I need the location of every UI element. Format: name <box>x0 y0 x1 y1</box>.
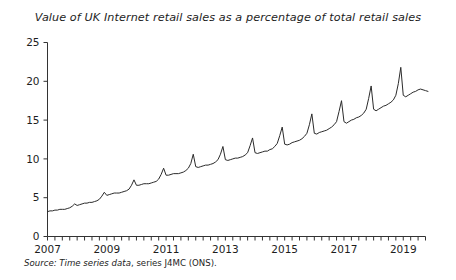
source-label: Source: <box>24 258 57 268</box>
y-tick-label: 0 <box>33 230 40 242</box>
chart-plot-area: 05101520252007200920112013201520172019 <box>0 0 456 280</box>
y-tick-label: 15 <box>26 114 39 126</box>
source-reference: , series J4MC (ONS). <box>131 258 217 268</box>
x-tick-label: 2011 <box>153 243 180 255</box>
y-tick-label: 10 <box>26 153 39 165</box>
x-tick-label: 2015 <box>271 243 298 255</box>
source-note: Source: Time series data, series J4MC (O… <box>24 258 217 268</box>
chart-figure: Value of UK Internet retail sales as a p… <box>0 0 456 280</box>
y-tick-label: 20 <box>26 75 39 87</box>
axes: 05101520252007200920112013201520172019 <box>26 36 425 254</box>
y-tick-label: 5 <box>33 191 40 203</box>
y-tick-label: 25 <box>26 36 39 48</box>
x-tick-label: 2009 <box>93 243 120 255</box>
x-tick-label: 2019 <box>390 243 417 255</box>
x-tick-label: 2007 <box>34 243 61 255</box>
x-tick-label: 2017 <box>331 243 358 255</box>
x-tick-label: 2013 <box>212 243 239 255</box>
source-dataset: Time series data <box>57 258 131 268</box>
data-series-line <box>48 67 428 211</box>
